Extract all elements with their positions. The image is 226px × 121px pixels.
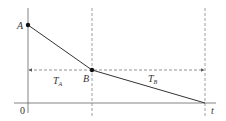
x-axis-label: t <box>211 105 214 116</box>
label-a: A <box>16 20 24 31</box>
label-ta: TA <box>53 75 63 87</box>
diagram: A B TA TB 0 t <box>0 0 226 121</box>
origin-label: 0 <box>20 105 25 116</box>
point-b <box>90 68 94 72</box>
point-a <box>26 23 30 27</box>
label-b: B <box>83 73 89 84</box>
segment-a-b <box>28 25 92 70</box>
label-tb: TB <box>148 73 158 85</box>
